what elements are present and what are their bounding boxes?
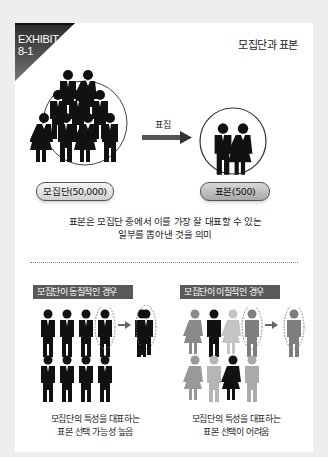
population-pill: 모집단(50,000) bbox=[36, 182, 114, 201]
definition-line-2: 일부를 뽑아낸 것을 의미 bbox=[30, 228, 300, 241]
homogeneous-population-icon bbox=[36, 307, 146, 402]
exhibit-number: 8-1 bbox=[18, 45, 59, 57]
definition-line-1: 표본은 모집단 중에서 이를 가장 잘 대표할 수 있는 bbox=[30, 215, 300, 228]
homogeneous-caption: 모집단의 특성을 대표하는 표본 선택 가능성 높음 bbox=[30, 413, 160, 439]
sample-pill: 표본(500) bbox=[200, 182, 270, 201]
heterogeneous-caption: 모집단의 특성을 대표하는 표본 선택이 어려움 bbox=[171, 413, 301, 439]
page-title: 모집단과 표본 bbox=[238, 36, 298, 52]
exhibit-word: EXHIBIT bbox=[18, 33, 59, 45]
heterogeneous-badge: 모집단이 이질적인 경우 bbox=[180, 285, 280, 299]
arrow-right-icon bbox=[142, 131, 192, 145]
definition-text: 표본은 모집단 중에서 이를 가장 잘 대표할 수 있는 일부를 뽑아낸 것을 … bbox=[30, 215, 300, 241]
heterogeneous-caption-line-2: 표본 선택이 어려움 bbox=[171, 426, 301, 439]
sampling-label: 표집 bbox=[155, 118, 171, 131]
exhibit-label: EXHIBIT 8-1 bbox=[18, 33, 59, 57]
heterogeneous-caption-line-1: 모집단의 특성을 대표하는 bbox=[171, 413, 301, 426]
homogeneous-caption-line-2: 표본 선택 가능성 높음 bbox=[30, 426, 160, 439]
homogeneous-badge: 모집단이 동질적인 경우 bbox=[33, 285, 133, 299]
section-divider bbox=[30, 262, 298, 263]
homogeneous-sample-icon bbox=[134, 305, 158, 355]
heterogeneous-population-icon bbox=[183, 307, 313, 402]
sample-group-icon bbox=[197, 105, 269, 177]
homogeneous-caption-line-1: 모집단의 특성을 대표하는 bbox=[30, 413, 160, 426]
population-crowd-icon bbox=[30, 68, 135, 178]
